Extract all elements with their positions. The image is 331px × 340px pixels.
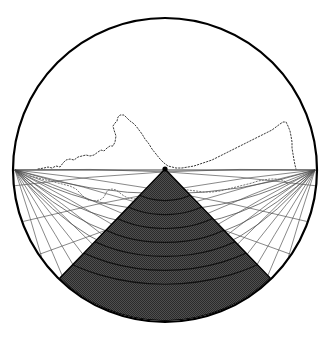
circular-projection-diagram: [0, 0, 331, 340]
apex-point: [162, 166, 167, 171]
figure-root: Circular fisheye projection diagram: [0, 0, 331, 340]
